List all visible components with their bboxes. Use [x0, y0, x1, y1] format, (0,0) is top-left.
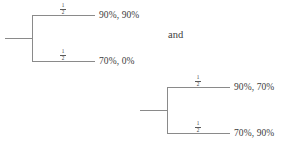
fraction-denominator: 2 — [193, 82, 203, 88]
fraction-denominator: 2 — [58, 10, 68, 16]
tree-right-branch-lower-probability: 1 2 — [193, 121, 203, 133]
fraction-denominator: 2 — [58, 56, 68, 62]
tree-left-payoff-upper: 90%, 90% — [99, 10, 139, 21]
tree-left-root-stem — [5, 38, 33, 39]
tree-left-payoff-lower: 70%, 0% — [99, 56, 135, 67]
tree-right-payoff-upper: 90%, 70% — [234, 82, 274, 93]
tree-left-decision-node — [32, 15, 33, 62]
tree-right-branch-upper-probability: 1 2 — [193, 75, 203, 87]
probability-tree-figure: 1 2 1 2 90%, 90% 70%, 0% and 1 2 — [0, 0, 289, 142]
tree-left-branch-upper-probability: 1 2 — [58, 3, 68, 15]
conjunction-label: and — [168, 29, 183, 41]
tree-right-payoff-lower: 70%, 90% — [234, 128, 274, 139]
tree-right-decision-node — [167, 87, 168, 134]
fraction-denominator: 2 — [193, 128, 203, 134]
tree-right-root-stem — [140, 110, 168, 111]
tree-left-branch-lower-probability: 1 2 — [58, 49, 68, 61]
